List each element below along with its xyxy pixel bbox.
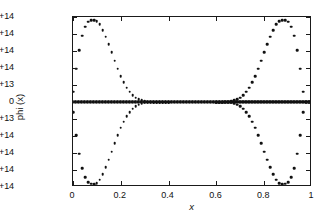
y-tick-label: −2.5e+14 xyxy=(0,182,14,191)
y-tick-mark xyxy=(73,153,77,154)
data-point xyxy=(245,111,248,114)
data-point xyxy=(293,167,296,170)
y-tick-mark xyxy=(73,102,77,103)
x-tick-mark xyxy=(169,17,170,21)
y-axis-title: phi (x) xyxy=(14,93,25,119)
y-tick-label: −5e+13 xyxy=(0,114,14,123)
figure-canvas: phi (x) 2.5e+142e+141.5e+141e+145e+130−5… xyxy=(0,0,329,213)
data-points-layer xyxy=(73,17,310,185)
data-point xyxy=(257,67,260,70)
data-point xyxy=(266,43,269,46)
y-tick-mark xyxy=(306,17,310,18)
data-point xyxy=(99,178,102,181)
y-tick-label: −1.5e+14 xyxy=(0,148,14,157)
data-point xyxy=(105,35,108,38)
data-point xyxy=(96,20,99,23)
data-point xyxy=(266,159,269,162)
data-point xyxy=(81,34,84,37)
data-point xyxy=(290,176,293,179)
data-point xyxy=(239,96,242,99)
data-point xyxy=(263,150,266,153)
x-tick-label: 0.2 xyxy=(114,191,127,200)
data-point xyxy=(254,75,257,78)
x-tick-mark xyxy=(121,17,122,21)
y-tick-mark xyxy=(306,85,310,86)
data-point xyxy=(287,20,290,23)
data-point xyxy=(275,23,278,26)
data-point xyxy=(242,108,245,111)
data-point xyxy=(248,86,251,89)
x-tick-mark xyxy=(73,17,74,21)
y-tick-mark xyxy=(306,34,310,35)
data-point xyxy=(122,81,125,84)
data-point xyxy=(99,23,102,26)
data-point xyxy=(81,167,84,170)
y-tick-mark xyxy=(73,170,77,171)
data-point xyxy=(102,173,105,176)
x-tick-mark xyxy=(264,181,265,185)
data-point xyxy=(299,67,302,70)
data-point xyxy=(260,142,263,145)
y-tick-mark xyxy=(306,102,310,103)
data-point xyxy=(248,115,251,118)
data-point xyxy=(251,120,254,123)
data-point xyxy=(111,51,114,54)
y-tick-label: 2.5e+14 xyxy=(0,12,14,21)
data-point xyxy=(254,127,257,130)
x-tick-label: 1 xyxy=(308,191,313,200)
y-tick-mark xyxy=(73,85,77,86)
x-tick-mark xyxy=(216,17,217,21)
data-point xyxy=(257,134,260,137)
x-tick-label: 0.4 xyxy=(161,191,174,200)
data-point xyxy=(125,86,128,89)
data-point xyxy=(117,134,120,137)
data-point xyxy=(114,142,117,145)
data-point xyxy=(128,111,131,114)
x-tick-label: 0.6 xyxy=(209,191,222,200)
y-tick-label: 1.5e+14 xyxy=(0,46,14,55)
x-tick-label: 0 xyxy=(69,191,74,200)
data-point xyxy=(245,91,248,94)
data-point xyxy=(296,49,299,52)
data-point xyxy=(72,91,74,94)
y-tick-label: 1e+14 xyxy=(0,63,14,72)
data-point xyxy=(272,29,275,32)
x-axis-title: x xyxy=(72,201,311,212)
x-tick-mark xyxy=(73,181,74,185)
data-point xyxy=(78,152,81,155)
data-point xyxy=(290,25,293,28)
data-point xyxy=(111,150,114,153)
y-tick-label: 0 xyxy=(0,97,14,106)
plot-area xyxy=(72,16,311,186)
data-point xyxy=(131,108,134,111)
data-point xyxy=(269,166,272,169)
data-point xyxy=(122,120,125,123)
y-tick-mark xyxy=(306,170,310,171)
data-point xyxy=(293,34,296,37)
y-tick-mark xyxy=(306,119,310,120)
data-point xyxy=(114,59,117,62)
data-point xyxy=(302,91,305,94)
x-tick-mark xyxy=(169,181,170,185)
data-point xyxy=(84,25,87,28)
data-point xyxy=(263,51,266,54)
data-point xyxy=(108,159,111,162)
y-tick-mark xyxy=(73,136,77,137)
data-point xyxy=(108,43,111,46)
x-tick-mark xyxy=(121,181,122,185)
data-point xyxy=(120,75,123,78)
y-tick-label: 2e+14 xyxy=(0,29,14,38)
data-point xyxy=(128,91,131,94)
y-tick-label: 5e+13 xyxy=(0,80,14,89)
data-point xyxy=(102,29,105,32)
data-point xyxy=(78,49,81,52)
y-tick-mark xyxy=(73,119,77,120)
data-point xyxy=(272,173,275,176)
data-point xyxy=(260,59,263,62)
x-tick-mark xyxy=(264,17,265,21)
data-point xyxy=(125,115,128,118)
y-tick-mark xyxy=(306,51,310,52)
x-tick-label: 0.8 xyxy=(257,191,270,200)
data-point xyxy=(117,67,120,70)
y-tick-label: −1e+14 xyxy=(0,131,14,140)
